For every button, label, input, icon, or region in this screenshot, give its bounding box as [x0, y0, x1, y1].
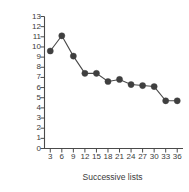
- data-point: [82, 70, 88, 76]
- data-point: [174, 98, 180, 104]
- data-point: [70, 53, 76, 59]
- y-axis-ticks: [41, 17, 45, 149]
- chart-figure: Mean number of trials to criterion 01234…: [0, 0, 189, 192]
- data-line: [50, 36, 177, 101]
- x-axis-ticks: [50, 149, 177, 153]
- data-point: [59, 33, 65, 39]
- axis-lines: [45, 17, 184, 149]
- x-axis-title: Successive lists: [40, 172, 185, 182]
- data-point: [47, 48, 53, 54]
- plot-area: [0, 0, 189, 192]
- data-point-markers: [47, 33, 180, 104]
- data-point: [105, 78, 111, 84]
- data-point: [151, 83, 157, 89]
- data-point: [128, 81, 134, 87]
- data-point: [116, 76, 122, 82]
- data-point: [93, 70, 99, 76]
- data-point: [140, 82, 146, 88]
- data-point: [163, 98, 169, 104]
